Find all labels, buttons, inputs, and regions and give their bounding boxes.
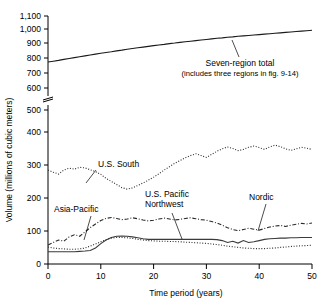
y-tick-label-1100: 1,100 [20, 11, 42, 21]
x-tick-label-40: 40 [254, 271, 264, 281]
y-tick-label-100: 100 [27, 226, 41, 236]
label-nordic: Nordic [249, 192, 274, 202]
label-asia-pacific: Asia-Pacific [54, 204, 99, 214]
x-axis-ticks [48, 264, 312, 269]
x-tick-label-20: 20 [149, 271, 159, 281]
series-line-us-pacific-northwest [48, 236, 312, 252]
y-tick-label-400: 400 [27, 127, 41, 137]
y-tick-label-0: 0 [36, 259, 41, 269]
x-tick-label-50: 50 [307, 271, 317, 281]
y-tick-label-900: 900 [27, 38, 41, 48]
label-us-pacific-northwest-line1: U.S. Pacific [145, 189, 190, 199]
label-seven-region-total: Seven-region total [206, 58, 275, 68]
leader-line-us-south [86, 170, 96, 183]
y-tick-label-200: 200 [27, 193, 41, 203]
y-axis-ticks [44, 16, 48, 264]
label-us-pacific-northwest-line2: Northwest [145, 199, 184, 209]
y-tick-label-300: 300 [27, 160, 41, 170]
x-tick-label-10: 10 [96, 271, 106, 281]
chart-canvas: 0 100 200 300 400 500 600 700 800 900 1,… [0, 0, 324, 304]
leader-line-nordic [258, 204, 266, 231]
y-tick-label-1000: 1,000 [20, 24, 42, 34]
y-axis-title: Volume (millions of cubic meters) [4, 97, 14, 222]
x-axis-title: Time period (years) [149, 288, 223, 298]
x-tick-label-30: 30 [202, 271, 212, 281]
leader-line-us-pacific-northwest [172, 213, 182, 239]
y-tick-label-700: 700 [27, 68, 41, 78]
leader-line-asia-pacific [84, 216, 91, 240]
label-seven-region-total-note: (includes three regions in fig. 9-14) [182, 69, 299, 78]
y-axis-break-icon [43, 96, 54, 105]
leader-line-seven-region-total [232, 40, 239, 57]
series-line-asia-pacific [48, 217, 312, 244]
chart-figure: 0 100 200 300 400 500 600 700 800 900 1,… [0, 0, 324, 304]
y-tick-label-600: 600 [27, 83, 41, 93]
y-tick-label-800: 800 [27, 53, 41, 63]
series-line-us-south [48, 145, 312, 189]
y-tick-label-500: 500 [27, 105, 41, 115]
label-us-south: U.S. South [98, 159, 139, 169]
x-tick-label-0: 0 [46, 271, 51, 281]
